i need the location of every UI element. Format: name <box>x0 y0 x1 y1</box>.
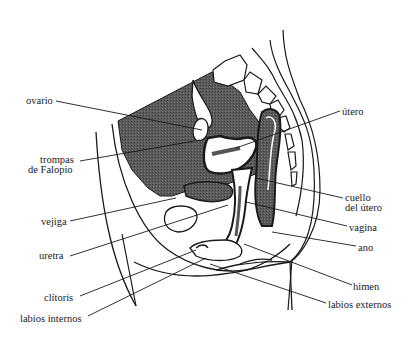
label-labios-externos: labios externos <box>328 300 391 310</box>
vulva <box>190 240 272 264</box>
label-clitoris: clítoris <box>44 293 73 303</box>
label-del-utero: del útero <box>345 203 382 213</box>
label-vagina: vagina <box>349 223 377 233</box>
label-labios-internos: labios internos <box>20 314 82 324</box>
label-uretra: uretra <box>39 251 63 261</box>
label-de-falopio: de Falopio <box>28 165 73 175</box>
label-himen: himen <box>353 282 379 292</box>
anatomy-diagram: ovario trompas de Falopio vejiga uretra … <box>0 0 416 340</box>
label-ano: ano <box>358 243 373 253</box>
rectum <box>255 109 280 226</box>
label-vejiga: vejiga <box>41 217 67 227</box>
bladder <box>184 182 233 202</box>
label-utero: útero <box>342 107 364 117</box>
label-ovario: ovario <box>26 96 53 106</box>
